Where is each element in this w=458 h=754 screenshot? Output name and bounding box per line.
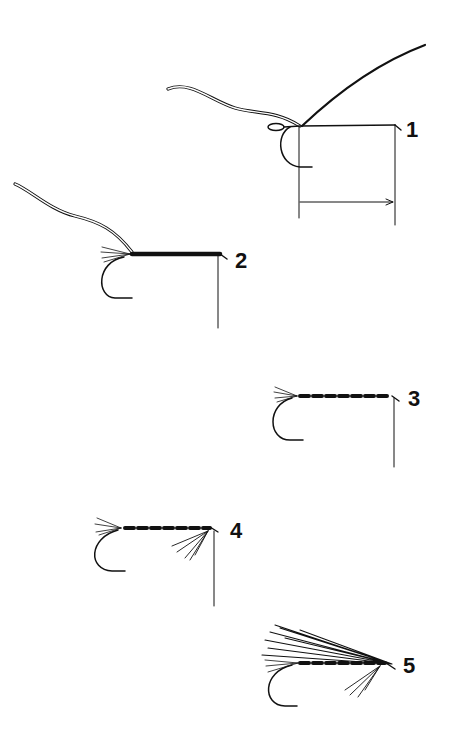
step-1-drawing [168, 45, 425, 225]
fly-tying-diagram [0, 0, 458, 754]
step-3-drawing [273, 387, 399, 467]
step-label-1: 1 [406, 119, 418, 141]
step-label-5: 5 [403, 655, 415, 677]
step-4-drawing [95, 518, 218, 606]
step-label-2: 2 [235, 250, 247, 272]
step-label-3: 3 [408, 388, 420, 410]
step-label-4: 4 [230, 520, 242, 542]
step-5-drawing [262, 625, 395, 706]
step-2-drawing [15, 184, 227, 328]
